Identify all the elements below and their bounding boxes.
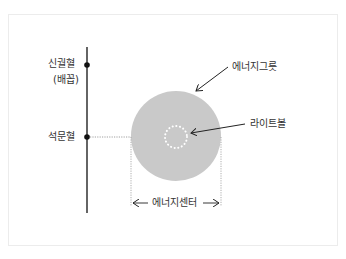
label-energy-bowl: 에너지그릇: [232, 62, 277, 72]
label-shingwolhyeol: 신궐혈: [48, 59, 75, 69]
label-seokmunhyeol: 석문혈: [48, 132, 75, 142]
seokmun-point: [84, 134, 90, 140]
label-light-ball: 라이트볼: [250, 119, 286, 129]
energy-bowl-circle: [131, 91, 221, 181]
diagram-graphics: [0, 0, 346, 259]
label-energy-center: 에너지센터: [152, 198, 197, 208]
energy-bowl-pointer-arrow: [196, 67, 228, 91]
shingwol-point: [84, 62, 90, 68]
label-baekkop: (배꼽): [53, 75, 79, 85]
